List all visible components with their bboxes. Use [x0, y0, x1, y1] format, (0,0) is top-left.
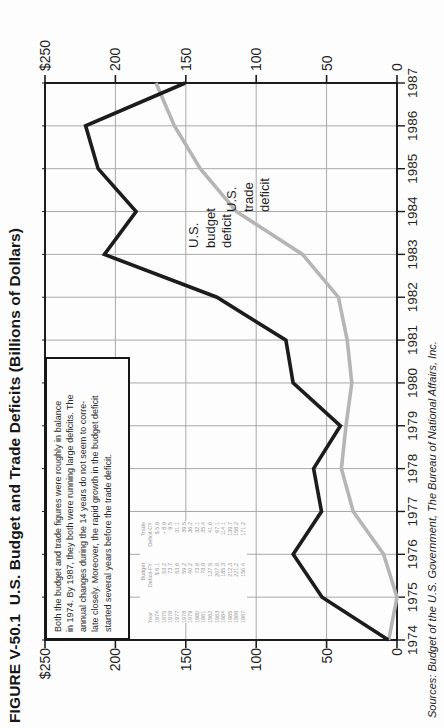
inset-table-row: 1987150.4171.2 — [240, 521, 247, 623]
inset-table-row: 198178.935.4 — [200, 521, 207, 623]
inset-table-budget-cell: 59.2 — [181, 563, 188, 602]
y-tick-label-left: 50 — [320, 648, 334, 728]
inset-table-year-cell: 1975 — [161, 602, 168, 623]
inset-table-header-year: Year — [147, 602, 154, 623]
inset-table-trade-cell: 31.1 — [174, 522, 181, 563]
inset-table-budget-cell: 78.9 — [200, 563, 207, 602]
inset-table-year-cell: 1987 — [240, 602, 247, 623]
inset-table-row: 1985212.3139.7 — [227, 521, 234, 623]
inset-table-row: 1986221.2158.2 — [233, 521, 240, 623]
x-tick-label: 1974 — [406, 618, 420, 662]
inset-table-year-cell: 1978 — [181, 602, 188, 623]
y-tick-label-right: 200 — [108, 11, 122, 71]
inset-table-budget-cell: 53.6 — [174, 563, 181, 602]
annotation-line: late closely. Moreover, the rapid growth… — [89, 359, 101, 632]
inset-table-budget-cell: $ 6.1 — [154, 563, 161, 602]
y-tick-label-right: 50 — [320, 11, 334, 71]
budget-line-label-line: budget — [203, 208, 220, 248]
inset-table-year-cell: 1976 — [167, 602, 174, 623]
inset-table-budget-cell: 73.7 — [167, 563, 174, 602]
inset-table-budget-cell: 221.2 — [233, 563, 240, 602]
y-tick-label-right: 0 — [390, 11, 404, 71]
inset-table-year-cell: 1983 — [214, 602, 221, 623]
x-tick-label: 1984 — [406, 190, 420, 234]
y-tick-label-left: 200 — [108, 648, 122, 728]
inset-table-row: 197940.236.2 — [187, 521, 194, 623]
x-tick-label: 1980 — [406, 361, 420, 405]
inset-table-trade-cell: 32.1 — [194, 522, 201, 563]
x-tick-label: 1982 — [406, 275, 420, 319]
trade-line-label-line: U.S. — [224, 178, 241, 212]
inset-table-trade-cell: 35.4 — [200, 522, 207, 563]
source-citation: Sources: Budget of the U.S. Government, … — [426, 341, 438, 718]
inset-table-trade-cell: 67.1 — [214, 522, 221, 563]
x-tick-label: 1976 — [406, 532, 420, 576]
inset-table-header: YearBudgetDeficit-FYTradeDeficit-CY — [140, 521, 153, 623]
y-tick-label-left: $250 — [38, 648, 52, 728]
annotation-line: started several years before the trade d… — [102, 359, 114, 632]
annotation-line: Both the budget and trade figures were r… — [52, 359, 64, 632]
inset-table-trade-cell: 9.5 — [167, 522, 174, 563]
y-tick-label-left: 0 — [390, 648, 404, 728]
y-tick-label-left: 150 — [179, 648, 193, 728]
inset-table-trade-cell: 36.2 — [187, 522, 194, 563]
inset-table-trade-cell: 41.6 — [207, 522, 214, 563]
inset-table-budget-cell: 185.3 — [220, 563, 227, 602]
x-tick-label: 1977 — [406, 489, 420, 533]
y-tick-label-right: 100 — [249, 11, 263, 71]
inset-table-row: 197673.79.5 — [167, 521, 174, 623]
x-tick-label: 1979 — [406, 404, 420, 448]
x-tick-label: 1985 — [406, 147, 420, 191]
x-tick-label: 1986 — [406, 104, 420, 148]
inset-table-row: 1982127.941.6 — [207, 521, 214, 623]
trade-line-label: U.S. trade deficit — [224, 178, 274, 212]
inset-table-year-cell: 1985 — [227, 602, 234, 623]
annotation-box: Both the budget and trade figures were r… — [45, 357, 130, 640]
inset-table-trade-cell: 171.2 — [240, 522, 247, 563]
inset-table-row: 197753.631.1 — [174, 521, 181, 623]
inset-table-budget-cell: 127.9 — [207, 563, 214, 602]
inset-table-header-budget: BudgetDeficit-FY — [140, 563, 153, 602]
inset-table-row: 1983207.867.1 — [214, 521, 221, 623]
inset-table-year-cell: 1982 — [207, 602, 214, 623]
trade-line-label-line: trade — [241, 178, 258, 212]
inset-table-year-cell: 1977 — [174, 602, 181, 623]
inset-table-row: 1984185.3114.1 — [220, 521, 227, 623]
inset-table-trade-cell: 139.7 — [227, 522, 234, 563]
trade-line-label-line: deficit — [257, 178, 274, 212]
inset-table-trade-cell: $ 5.9 — [154, 522, 161, 563]
inset-data-table: YearBudgetDeficit-FYTradeDeficit-CY1974$… — [140, 521, 247, 623]
inset-table-row: 198073.832.1 — [194, 521, 201, 623]
inset-table-trade-cell: 39.5 — [181, 522, 188, 563]
rotated-canvas: FIGURE V-50.1 U.S. Budget and Trade Defi… — [0, 0, 444, 728]
budget-line-label-line: U.S. — [186, 208, 203, 248]
budget-line-label: U.S. budget deficit — [186, 208, 236, 248]
inset-table-row: 197859.239.5 — [181, 521, 188, 623]
y-tick-label-right: 150 — [179, 11, 193, 71]
annotation-line: in 1974. By 1987, they both were running… — [64, 359, 76, 632]
inset-table-budget-cell: 73.8 — [194, 563, 201, 602]
x-tick-label: 1983 — [406, 232, 420, 276]
x-tick-label: 1978 — [406, 447, 420, 491]
annotation-line: annual changes during the 14 years do no… — [77, 359, 89, 632]
x-tick-label: 1981 — [406, 318, 420, 362]
x-tick-label: 1987 — [406, 61, 420, 105]
inset-table-year-cell: 1980 — [194, 602, 201, 623]
inset-table-row: 197553.2+ 8.9 — [161, 521, 168, 623]
inset-table-budget-cell: 150.4 — [240, 563, 247, 602]
budget-line-label-line: deficit — [219, 208, 236, 248]
y-tick-label-right: $250 — [38, 11, 52, 71]
inset-table-year-cell: 1986 — [233, 602, 240, 623]
inset-table-row: 1974$ 6.1$ 5.9 — [154, 521, 161, 623]
inset-table-trade-cell: 114.1 — [220, 522, 227, 563]
inset-table-trade-cell: + 8.9 — [161, 522, 168, 563]
inset-table-budget-cell: 212.3 — [227, 563, 234, 602]
inset-table-year-cell: 1974 — [154, 602, 161, 623]
inset-table-budget-cell: 53.2 — [161, 563, 168, 602]
inset-table-budget-cell: 207.8 — [214, 563, 221, 602]
figure-page: FIGURE V-50.1 U.S. Budget and Trade Defi… — [0, 0, 444, 728]
inset-table-year-cell: 1979 — [187, 602, 194, 623]
inset-table-budget-cell: 40.2 — [187, 563, 194, 602]
inset-table-year-cell: 1981 — [200, 602, 207, 623]
inset-table-trade-cell: 158.2 — [233, 522, 240, 563]
